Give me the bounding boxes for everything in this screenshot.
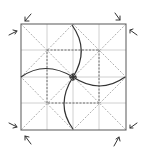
arrow-bottom-right-left-icon <box>130 123 137 128</box>
arrow-top-left-down-icon <box>25 14 31 21</box>
arrow-top-left-right-icon <box>9 30 17 35</box>
arrow-bottom-left-up-icon <box>25 136 31 144</box>
origami-diagram <box>0 0 145 155</box>
arrow-bottom-right-up-icon <box>114 137 120 146</box>
arrow-top-right-down-icon <box>115 13 120 20</box>
arrow-top-right-left-icon <box>130 29 137 35</box>
arrow-bottom-left-right-icon <box>9 123 17 128</box>
